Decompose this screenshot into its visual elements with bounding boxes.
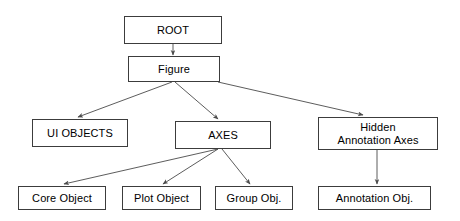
node-label: Group Obj. bbox=[227, 192, 282, 205]
node-ui-objects[interactable]: UI OBJECTS bbox=[32, 119, 128, 147]
node-label: Annotation Obj. bbox=[336, 192, 413, 205]
edge-figure-to-axes bbox=[175, 82, 218, 119]
node-plot-object[interactable]: Plot Object bbox=[122, 186, 201, 210]
node-label: Plot Object bbox=[134, 192, 189, 205]
node-label: Core Object bbox=[32, 192, 92, 205]
node-root[interactable]: ROOT bbox=[124, 16, 222, 44]
node-axes[interactable]: AXES bbox=[175, 121, 271, 149]
node-label: Hidden Annotation Axes bbox=[337, 121, 418, 146]
diagram-canvas: ROOTFigureUI OBJECTSAXESHidden Annotatio… bbox=[0, 0, 460, 221]
node-hidden-axes[interactable]: Hidden Annotation Axes bbox=[318, 117, 438, 150]
node-figure[interactable]: Figure bbox=[128, 56, 220, 82]
node-group-object[interactable]: Group Obj. bbox=[215, 186, 293, 210]
edges-group bbox=[64, 44, 377, 184]
edge-figure-to-hidden-axes bbox=[218, 82, 363, 115]
node-label: AXES bbox=[208, 129, 238, 142]
node-annotation-object[interactable]: Annotation Obj. bbox=[318, 186, 431, 210]
node-core-object[interactable]: Core Object bbox=[18, 186, 106, 210]
node-label: UI OBJECTS bbox=[47, 127, 113, 140]
edge-axes-to-group-object bbox=[222, 149, 250, 184]
edge-figure-to-ui-objects bbox=[78, 82, 172, 117]
edge-axes-to-plot-object bbox=[163, 149, 218, 184]
node-label: Figure bbox=[158, 63, 190, 76]
edge-axes-to-core-object bbox=[64, 149, 218, 184]
node-label: ROOT bbox=[157, 24, 189, 37]
